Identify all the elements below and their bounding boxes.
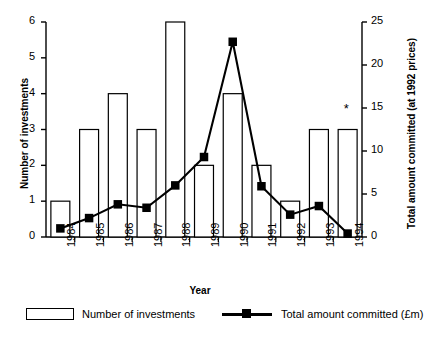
y-axis-right-tick-label: 5 xyxy=(371,186,393,198)
chart-legend: Number of investments Total amount commi… xyxy=(26,305,426,327)
x-axis-tick-label: 1988 xyxy=(180,223,192,247)
y-axis-right-tick-label: 0 xyxy=(371,229,393,241)
line-marker-1984 xyxy=(56,224,64,233)
bar-1994 xyxy=(338,130,357,238)
line-marker-1986 xyxy=(114,200,123,209)
line-marker-1990 xyxy=(228,38,237,47)
bar-outline-swatch xyxy=(26,308,74,320)
legend-item-number-of-investments: Number of investments xyxy=(26,305,195,323)
line-marker-1985 xyxy=(85,214,94,223)
y-axis-right-tick-label: 25 xyxy=(371,14,393,26)
plot-area xyxy=(0,0,435,339)
x-axis-tick-label: 1993 xyxy=(324,223,336,247)
line-marker-swatch xyxy=(222,308,272,320)
legend-label-line: Total amount committed (£m) xyxy=(281,308,423,320)
x-axis-tick-label: 1984 xyxy=(65,223,77,247)
legend-square-marker xyxy=(242,309,251,318)
line-marker-1987 xyxy=(142,204,151,213)
bar-1988 xyxy=(166,22,185,237)
y-axis-right-tick-label: 10 xyxy=(371,143,393,155)
x-axis-tick-label: 1991 xyxy=(266,223,278,247)
x-axis-tick-label: 1987 xyxy=(152,223,164,247)
line-marker-1994 xyxy=(343,229,352,238)
y-axis-left-tick-label: 1 xyxy=(13,193,35,205)
y-axis-left-tick-label: 6 xyxy=(13,14,35,26)
x-axis-tick-label: 1985 xyxy=(94,223,106,247)
line-marker-1988 xyxy=(171,181,180,190)
x-axis-tick-label: 1986 xyxy=(123,223,135,247)
line-marker-1993 xyxy=(315,202,324,211)
y-axis-left-tick-label: 4 xyxy=(13,86,35,98)
line-marker-1992 xyxy=(286,210,295,219)
x-axis-tick-label: 1989 xyxy=(209,223,221,247)
chart-container: Number of investments Total amount commi… xyxy=(0,0,435,339)
y-axis-right-tick-label: 15 xyxy=(371,100,393,112)
annotation-asterisk: * xyxy=(344,101,349,116)
legend-item-total-amount-committed: Total amount committed (£m) xyxy=(222,305,423,323)
line-marker-1989 xyxy=(200,153,209,162)
x-axis-tick-label: 1992 xyxy=(295,223,307,247)
bar-1987 xyxy=(137,130,156,238)
x-axis-tick-label: 1994 xyxy=(353,223,365,247)
y-axis-left-tick-label: 3 xyxy=(13,122,35,134)
bar-1993 xyxy=(309,130,328,238)
y-axis-left-tick-label: 2 xyxy=(13,157,35,169)
x-axis-tick-label: 1990 xyxy=(238,223,250,247)
bar-1990 xyxy=(223,94,242,237)
y-axis-left-tick-label: 5 xyxy=(13,50,35,62)
y-axis-right-tick-label: 20 xyxy=(371,57,393,69)
bar-1986 xyxy=(108,94,127,237)
y-axis-left-tick-label: 0 xyxy=(13,229,35,241)
legend-label-bars: Number of investments xyxy=(82,308,195,320)
line-marker-1991 xyxy=(257,182,266,191)
